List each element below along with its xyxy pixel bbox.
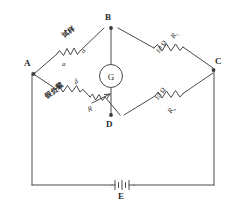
specimen-terminal-a-label: a (62, 61, 66, 68)
wire-rn-to-c (183, 73, 213, 94)
wire-a-to-specimen (35, 54, 57, 73)
galvanometer-symbol: G (108, 72, 115, 82)
junction-dot-c (212, 68, 216, 72)
wire-b-to-r1 (118, 28, 154, 48)
specimen-terminal-b-label: b (82, 48, 86, 55)
circuit-schematic: G (0, 0, 246, 210)
node-label-a: A (24, 59, 31, 68)
wire-d-to-rn (124, 96, 155, 115)
node-label-b: B (105, 13, 111, 22)
node-label-c: C (215, 57, 222, 66)
junction-dot-b (109, 26, 113, 30)
node-label-e: E (118, 192, 124, 201)
wire-rheostat-to-d (105, 97, 120, 115)
wire-dummyload-to-rheostat (83, 90, 90, 98)
circuit-diagram-screenshot: G B A C D E 试样 b a R1 10 Ω d 假负载 R 10 Ω … (0, 0, 246, 210)
wire-r1-to-c (183, 47, 213, 68)
node-label-d: D (106, 120, 113, 129)
junction-dot-a (32, 72, 36, 76)
junction-dot-d (109, 113, 113, 117)
resistor-specimen-zigzag (57, 48, 80, 56)
